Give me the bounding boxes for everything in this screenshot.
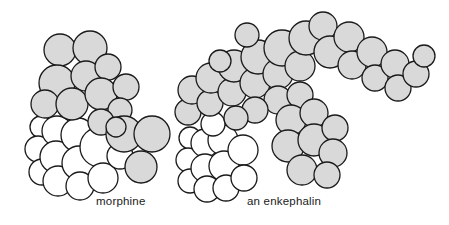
atom-sphere — [134, 116, 170, 152]
atom-sphere — [113, 74, 139, 100]
atom-sphere — [285, 51, 315, 81]
molecule-illustration — [0, 0, 449, 225]
atom-sphere — [125, 151, 157, 183]
atom-sphere — [413, 45, 435, 67]
atom-sphere — [224, 106, 248, 130]
atom-sphere — [235, 23, 259, 47]
atom-sphere — [228, 135, 258, 165]
atom-sphere — [231, 165, 257, 191]
atom-sphere — [95, 54, 121, 80]
atom-sphere — [287, 155, 317, 185]
atom-sphere — [106, 117, 126, 137]
molecule-label-morphine: morphine — [96, 195, 146, 207]
molecule-label-enkephalin: an enkephalin — [247, 195, 321, 207]
atom-sphere — [31, 90, 59, 118]
atom-sphere — [314, 162, 340, 188]
atom-sphere — [44, 34, 76, 66]
atom-sphere — [209, 50, 231, 72]
atom-sphere — [322, 115, 348, 141]
atom-sphere — [56, 88, 88, 120]
